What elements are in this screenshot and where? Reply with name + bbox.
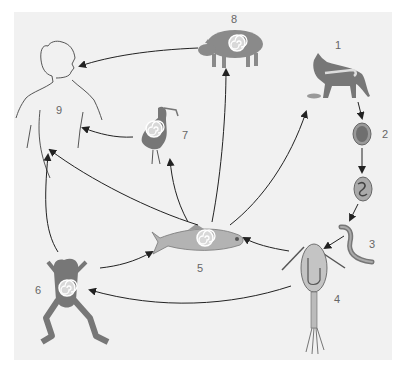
stage-label-3: 3 [369,238,375,250]
arrow-1-to-2 [358,102,362,118]
stage-label-6: 6 [35,284,41,296]
larva-worm-icon [341,227,372,262]
arrow-3-to-4 [325,236,344,248]
arrow-5-to-9 [50,150,198,225]
pig-icon [198,30,263,68]
arrow-6-to-9 [46,155,58,252]
stage-label-1: 1 [335,39,341,51]
stage-label-9: 9 [56,104,62,116]
arrow-8-to-9 [80,48,198,66]
embryonated-egg-icon [354,177,372,201]
frog-icon [42,259,108,342]
stage-label-5: 5 [197,262,203,274]
arrow-4-to-5 [244,238,289,251]
life-cycle-diagram [0,0,396,366]
arrow-5-to-8 [212,70,226,222]
egg-icon [353,123,371,145]
stage-label-2: 2 [382,128,388,140]
stage-label-8: 8 [231,13,237,25]
cat-icon [307,53,370,99]
arrow-2b-to-3 [350,204,358,220]
arrow-7-to-9 [83,128,133,137]
arrow-6-to-5 [100,252,152,268]
stage-label-4: 4 [334,293,340,305]
arrow-5-to-7 [170,160,188,222]
fish-icon [152,224,243,254]
arrow-5-to-1 [230,112,306,225]
stage-label-7: 7 [182,129,188,141]
arrow-4-to-6 [90,286,291,303]
bird-icon [142,107,178,164]
